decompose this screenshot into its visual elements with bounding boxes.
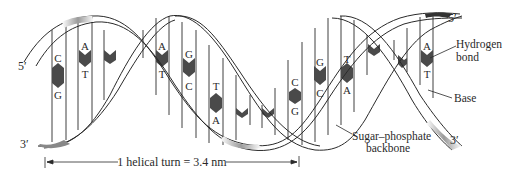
label-3prime-left: 3′ (20, 137, 29, 151)
hydrogen-bonds (52, 44, 433, 118)
base-bottom-6: G (291, 105, 299, 117)
base-bottom-1: G (54, 89, 62, 101)
label-5prime-left: 5′ (18, 59, 27, 73)
base-top-4: G (185, 48, 193, 60)
base-bottom-4: C (185, 80, 192, 92)
label-3prime-right: 3′ (450, 133, 459, 147)
base-bottom-5: A (212, 114, 220, 126)
base-bottom-2: T (82, 68, 89, 80)
helical-turn-label: 1 helical turn = 3.4 nm (117, 155, 227, 169)
base-top-7: G (316, 56, 324, 68)
base-rungs (52, 14, 433, 145)
base-top-6: C (291, 76, 298, 88)
hydrogen-bond-label-line2: bond (456, 51, 479, 63)
base-label: Base (454, 92, 476, 104)
label-5prime-right: 5′ (448, 11, 457, 25)
base-top-1: C (54, 52, 61, 64)
base-top-5: T (213, 80, 220, 92)
base-bottom-9: T (424, 68, 431, 80)
callout-hydrogen-bond: Hydrogen bond (430, 38, 502, 63)
base-bottom-3: T (159, 68, 166, 80)
base-bottom-7: C (316, 87, 323, 99)
hydrogen-bond-label-line1: Hydrogen (456, 38, 502, 51)
callout-backbone: Sugar–phosphate backbone (336, 125, 431, 154)
base-top-9: A (423, 40, 431, 52)
base-bottom-8: A (343, 84, 351, 96)
base-top-8: T (344, 53, 351, 65)
backbone-label-line2: backbone (366, 142, 410, 154)
callout-base: Base (428, 90, 476, 104)
dna-helix-diagram: C G A T A T G C T A C G G C T A A T 5′ 3… (0, 0, 505, 186)
base-top-2: A (81, 40, 89, 52)
base-top-3: A (158, 40, 166, 52)
